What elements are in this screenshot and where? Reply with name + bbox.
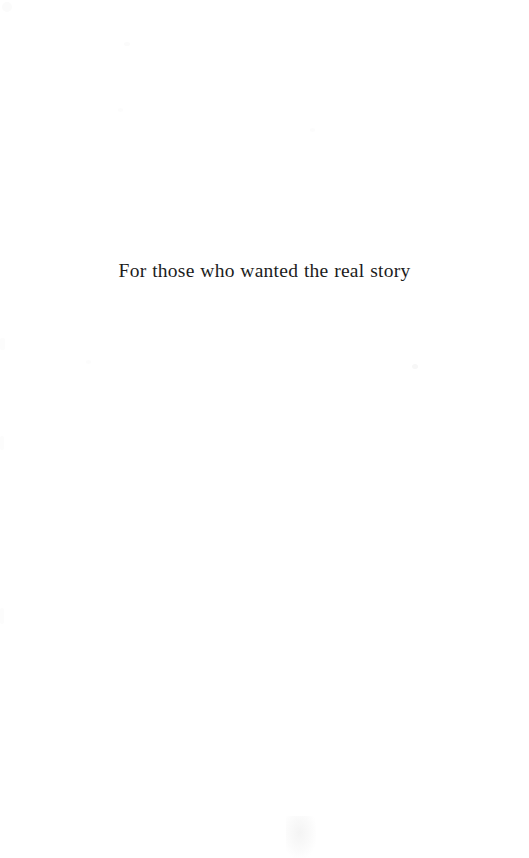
dedication-text: For those who wanted the real story [119, 258, 411, 284]
scan-artifact-speck [0, 608, 4, 624]
scan-artifact-speck [0, 338, 5, 350]
scan-artifact-smudge [286, 816, 316, 858]
dedication-block: For those who wanted the real story [0, 238, 529, 303]
scan-artifact-speck [412, 364, 418, 369]
scan-artifact-speck [310, 128, 315, 132]
scanned-book-page: For those who wanted the real story [0, 0, 529, 858]
scan-artifact-speck [118, 108, 123, 112]
scan-artifact-speck [0, 436, 4, 450]
scan-artifact-speck [2, 2, 12, 12]
scan-artifact-speck [86, 360, 91, 364]
scan-artifact-speck [124, 42, 130, 46]
